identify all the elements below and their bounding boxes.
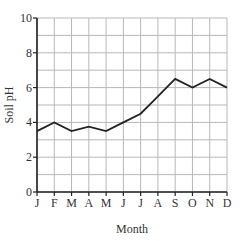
x-tick-label: J: [138, 196, 143, 210]
y-tick-label: 8: [26, 46, 32, 60]
x-tick-label: A: [154, 196, 163, 210]
grid-lines: [37, 18, 227, 192]
x-tick-label: J: [121, 196, 126, 210]
x-tick-label: M: [101, 196, 112, 210]
x-axis-title: Month: [116, 222, 148, 236]
x-axis-ticks: JFMAMJJASOND: [35, 192, 232, 210]
x-tick-label: D: [223, 196, 232, 210]
y-axis-title: Soil pH: [2, 86, 16, 123]
y-tick-label: 2: [26, 150, 32, 164]
y-tick-label: 4: [26, 115, 32, 129]
x-tick-label: N: [205, 196, 214, 210]
y-tick-label: 0: [26, 185, 32, 199]
y-tick-label: 6: [26, 81, 32, 95]
x-tick-label: S: [172, 196, 179, 210]
x-tick-label: A: [84, 196, 93, 210]
x-tick-label: M: [66, 196, 77, 210]
y-axis-ticks: 0246810: [20, 11, 37, 199]
x-tick-label: F: [51, 196, 58, 210]
x-tick-label: O: [188, 196, 197, 210]
x-tick-label: J: [35, 196, 40, 210]
y-tick-label: 10: [20, 11, 32, 25]
line-chart: 0246810 JFMAMJJASOND Month Soil pH: [0, 0, 243, 241]
